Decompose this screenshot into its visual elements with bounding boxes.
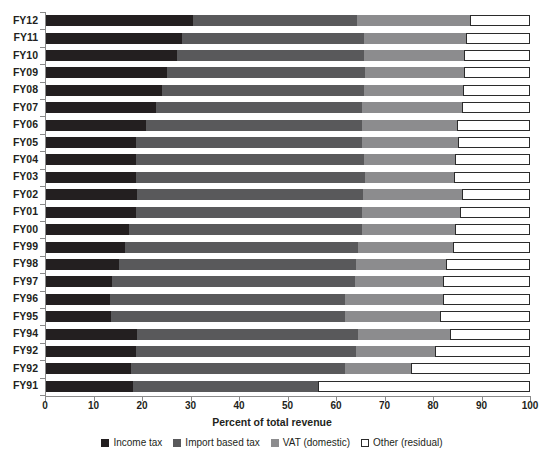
bar-segment (364, 50, 464, 61)
bar-segment (345, 294, 443, 305)
bar-segment (358, 329, 450, 340)
y-axis-tick-label: FY05 (0, 136, 38, 148)
legend-swatch-icon (101, 439, 109, 447)
bar-row (46, 207, 530, 218)
bar-segment (411, 363, 530, 374)
bar-segment (364, 154, 455, 165)
bar-segment (46, 346, 136, 357)
bar-segment (46, 85, 162, 96)
bar-segment (137, 189, 363, 200)
bar-segment (460, 207, 530, 218)
bar-segment (363, 189, 463, 200)
bar-segment (129, 224, 361, 235)
legend-swatch-icon (173, 439, 181, 447)
x-axis-tick-label: 40 (233, 400, 244, 411)
bar-row (46, 259, 530, 270)
y-axis-tick-label: FY94 (0, 327, 38, 339)
legend-swatch-icon (361, 439, 369, 447)
bar-segment (136, 207, 362, 218)
bar-row (46, 363, 530, 374)
bar-segment (435, 346, 530, 357)
bar-segment (463, 85, 530, 96)
bar-segment (46, 276, 112, 287)
bar-row (46, 154, 530, 165)
bar-segment (46, 102, 156, 113)
bar-segment (362, 120, 458, 131)
legend-item[interactable]: Other (residual) (361, 437, 442, 448)
bar-segment (455, 154, 530, 165)
bar-segment (457, 120, 530, 131)
bar-segment (362, 137, 459, 148)
bar-row (46, 102, 530, 113)
bar-segment (345, 363, 411, 374)
bar-segment (365, 67, 464, 78)
bar-row (46, 67, 530, 78)
bar-segment (364, 33, 466, 44)
x-axis-tick-label: 90 (476, 400, 487, 411)
bar-segment (46, 242, 125, 253)
legend-item[interactable]: Income tax (101, 437, 162, 448)
y-axis-tick-label: FY04 (0, 153, 38, 165)
bar-row (46, 311, 530, 322)
bar-segment (46, 67, 167, 78)
bar-segment (318, 381, 530, 392)
bar-segment (131, 363, 345, 374)
y-axis-tick-label: FY12 (0, 14, 38, 26)
y-axis-tick-label: FY91 (0, 379, 38, 391)
bar-segment (46, 50, 177, 61)
bar-row (46, 50, 530, 61)
bar-segment (362, 102, 463, 113)
legend-label: Other (residual) (373, 437, 442, 448)
legend-label: Import based tax (185, 437, 259, 448)
bar-row (46, 189, 530, 200)
y-axis-tick-label: FY00 (0, 223, 38, 235)
y-axis-tick-label: FY97 (0, 275, 38, 287)
bar-segment (46, 154, 136, 165)
bar-row (46, 381, 530, 392)
bar-segment (458, 137, 530, 148)
legend-item[interactable]: VAT (domestic) (271, 437, 350, 448)
legend-item[interactable]: Import based tax (173, 437, 259, 448)
y-axis-tick-label: FY08 (0, 83, 38, 95)
bar-segment (46, 311, 111, 322)
bar-segment (470, 15, 530, 26)
bar-segment (46, 137, 136, 148)
y-axis-tick-label: FY01 (0, 205, 38, 217)
bar-segment (443, 294, 530, 305)
x-axis-tick-label: 70 (379, 400, 390, 411)
legend-label: VAT (domestic) (283, 437, 350, 448)
bar-segment (46, 120, 146, 131)
bar-row (46, 172, 530, 183)
bar-segment (443, 276, 530, 287)
bar-row (46, 137, 530, 148)
bar-row (46, 329, 530, 340)
bar-segment (362, 224, 456, 235)
bar-segment (462, 102, 530, 113)
bar-segment (455, 224, 530, 235)
y-axis-tick-label: FY03 (0, 170, 38, 182)
y-axis-tick-label: FY96 (0, 292, 38, 304)
bar-segment (357, 15, 470, 26)
y-axis-tick-label: FY95 (0, 310, 38, 322)
plot-area (46, 12, 530, 395)
bar-segment (46, 294, 110, 305)
bar-segment (462, 189, 530, 200)
bar-segment (46, 189, 137, 200)
bar-segment (136, 137, 362, 148)
bar-segment (162, 85, 363, 96)
bar-segment (156, 102, 361, 113)
bar-segment (362, 207, 461, 218)
bar-segment (358, 242, 453, 253)
bar-segment (112, 276, 355, 287)
bar-segment (356, 259, 446, 270)
bar-segment (453, 242, 530, 253)
bar-segment (111, 311, 345, 322)
bar-row (46, 33, 530, 44)
bar-segment (119, 259, 356, 270)
bar-segment (365, 172, 454, 183)
y-axis-tick-label: FY06 (0, 118, 38, 130)
bar-segment (146, 120, 362, 131)
x-axis-tick-label: 50 (282, 400, 293, 411)
y-axis-tick-label: FY92 (0, 344, 38, 356)
cropped-title-remnant (8, 0, 528, 5)
